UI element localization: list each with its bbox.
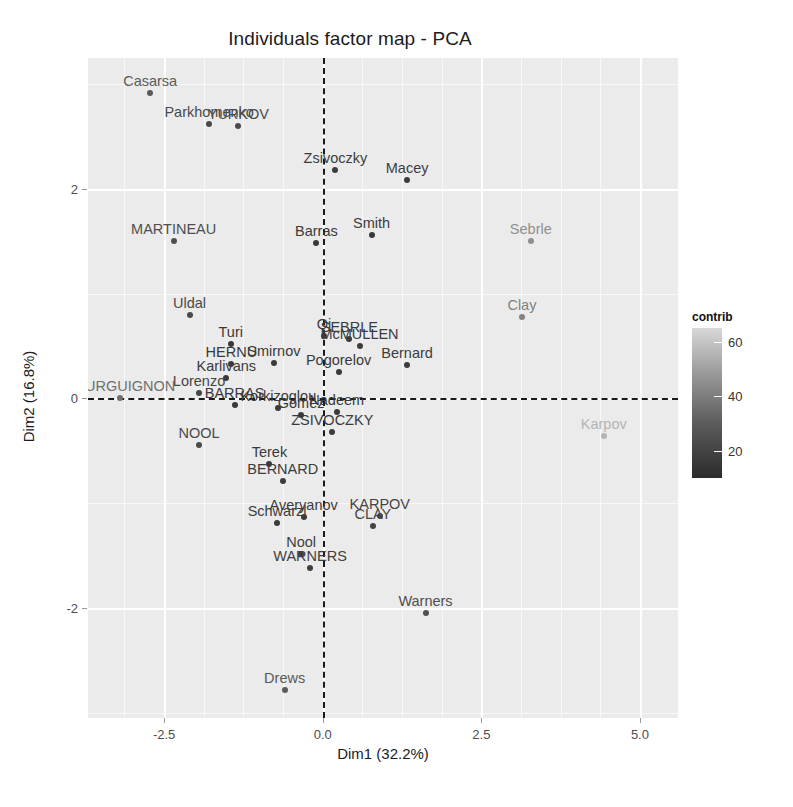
gridline-horizontal-minor: [88, 503, 678, 504]
gridline-horizontal: [88, 608, 678, 610]
point-label: Sebrle: [510, 222, 552, 237]
data-point: [357, 343, 363, 349]
gridline-vertical: [481, 58, 483, 718]
gridline-vertical-minor: [521, 58, 522, 718]
point-label: Karlivans: [196, 358, 256, 373]
point-label: Terek: [252, 445, 287, 460]
point-label: Averyanov: [270, 497, 338, 512]
data-point: [423, 610, 429, 616]
point-label: NOOL: [178, 425, 219, 440]
data-point: [334, 409, 340, 415]
data-point: [235, 123, 241, 129]
point-label: YURKOV: [208, 107, 269, 122]
x-tick-mark: [481, 718, 482, 723]
point-label: Casarsa: [123, 73, 177, 88]
point-label: Smith: [353, 216, 390, 231]
point-label: Korkizoglou: [240, 388, 316, 403]
plot-panel: CasarsaParkhomenkoYURKOVZsivoczkyMaceyMA…: [88, 58, 678, 718]
data-point: [275, 405, 281, 411]
legend-title: contrib: [692, 310, 792, 324]
y-tick-mark: [82, 398, 87, 399]
gridline-vertical-minor: [402, 58, 403, 718]
point-label: Macey: [386, 160, 429, 175]
x-axis-label: Dim1 (32.2%): [88, 745, 678, 762]
data-point: [601, 433, 607, 439]
legend: contrib 604020: [692, 310, 792, 478]
data-point: [301, 514, 307, 520]
y-tick-mark: [82, 608, 87, 609]
data-point: [271, 360, 277, 366]
gridline-horizontal-minor: [88, 294, 678, 295]
vertical-reference-line: [323, 58, 325, 718]
x-tick-label: 5.0: [631, 727, 649, 742]
legend-colorbar-wrap: 604020: [692, 328, 792, 478]
y-tick-label: 2: [54, 181, 78, 196]
gridline-vertical-minor: [442, 58, 443, 718]
legend-tick-label: 20: [728, 443, 742, 458]
data-point: [313, 240, 319, 246]
data-point: [369, 232, 375, 238]
data-point: [232, 402, 238, 408]
data-point: [332, 167, 338, 173]
point-label: Turi: [219, 325, 243, 340]
legend-colorbar: [692, 328, 722, 478]
page-title: Individuals factor map - PCA: [0, 28, 700, 50]
point-label: BOURGUIGNON: [88, 379, 175, 394]
legend-tick-mark: [714, 342, 722, 343]
data-point: [519, 314, 525, 320]
x-tick-mark: [164, 718, 165, 723]
x-tick-mark: [640, 718, 641, 723]
data-point: [528, 238, 534, 244]
gridline-vertical-minor: [561, 58, 562, 718]
point-label: Karpov: [581, 417, 627, 432]
data-point: [280, 478, 286, 484]
legend-tick-label: 60: [728, 334, 742, 349]
data-point: [298, 551, 304, 557]
point-label: Parkhomenko: [164, 105, 253, 120]
data-point: [329, 429, 335, 435]
data-point: [228, 361, 234, 367]
gridline-vertical-minor: [600, 58, 601, 718]
point-label: SEBRLE: [321, 319, 378, 334]
gridline-vertical-minor: [204, 58, 205, 718]
data-point: [117, 395, 123, 401]
y-tick-label: 0: [54, 391, 78, 406]
gridline-horizontal-minor: [88, 84, 678, 85]
data-point: [404, 362, 410, 368]
data-point: [377, 513, 383, 519]
data-point: [346, 336, 352, 342]
legend-tick-mark: [714, 396, 722, 397]
data-point: [228, 341, 234, 347]
data-point: [274, 520, 280, 526]
data-point: [171, 238, 177, 244]
pca-scatter-plot: Individuals factor map - PCA CasarsaPark…: [0, 0, 793, 807]
point-label: Zsivoczky: [304, 151, 368, 166]
gridline-vertical: [164, 58, 166, 718]
legend-tick-mark: [714, 451, 722, 452]
y-axis-label: Dim2 (16.8%): [20, 307, 37, 487]
data-point: [206, 121, 212, 127]
point-label: Schwarzl: [248, 504, 307, 519]
point-label: McMULLEN: [320, 327, 398, 342]
point-label: Lorenzo: [173, 374, 225, 389]
point-label: CLAY: [354, 507, 391, 522]
data-point: [196, 442, 202, 448]
data-point: [404, 177, 410, 183]
gridline-horizontal-minor: [88, 713, 678, 714]
data-point: [307, 565, 313, 571]
point-label: Barras: [295, 224, 338, 239]
y-tick-label: -2: [54, 601, 78, 616]
gridline-vertical: [640, 58, 642, 718]
point-label: WARNERS: [273, 549, 347, 564]
point-label: Bernard: [381, 345, 433, 360]
x-tick-label: 0.0: [314, 727, 332, 742]
legend-tick-label: 40: [728, 389, 742, 404]
point-label: Uldal: [173, 295, 206, 310]
point-label: Warners: [398, 594, 452, 609]
data-point: [282, 687, 288, 693]
x-tick-label: -2.5: [153, 727, 175, 742]
horizontal-reference-line: [88, 398, 678, 400]
gridline-horizontal: [88, 189, 678, 191]
data-point: [336, 369, 342, 375]
point-label: Drews: [264, 670, 305, 685]
